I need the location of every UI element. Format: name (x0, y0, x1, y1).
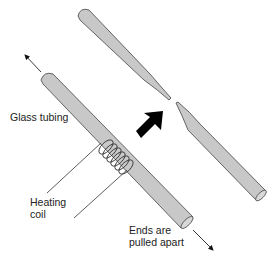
ends-pulled-apart-label: Ends are pulled apart (129, 224, 184, 248)
glass-tube-pulled-lower (176, 102, 268, 202)
ends-label-line1: Ends are (129, 224, 184, 236)
coil-leader-line-1 (47, 143, 101, 193)
micropipette-pulling-diagram (0, 0, 275, 260)
pull-arrow-down-right-icon (193, 230, 213, 250)
coil-leader-line-2 (74, 170, 127, 218)
glass-tubing-label: Glass tubing (10, 111, 68, 123)
glass-tube-pulled-upper (78, 9, 171, 100)
pull-arrow-up-left-icon (25, 55, 41, 72)
process-arrow-icon (136, 111, 163, 138)
heating-coil-label-line1: Heating (30, 196, 66, 208)
heating-coil-label-line2: coil (30, 208, 66, 220)
heating-coil-label: Heating coil (30, 196, 66, 220)
ends-label-line2: pulled apart (129, 236, 184, 248)
